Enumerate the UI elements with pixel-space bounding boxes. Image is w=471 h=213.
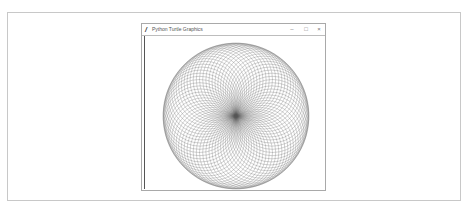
maximize-button[interactable]: □ [301,25,311,34]
minimize-button[interactable]: – [287,25,297,34]
turtle-canvas[interactable] [144,36,324,189]
window-title: Python Turtle Graphics [152,26,203,33]
turtle-window: / Python Turtle Graphics – □ × [141,23,326,191]
title-bar[interactable]: / Python Turtle Graphics – □ × [142,24,325,36]
feather-icon: / [145,26,147,33]
close-button[interactable]: × [314,25,324,34]
spirograph-drawing [145,36,327,190]
